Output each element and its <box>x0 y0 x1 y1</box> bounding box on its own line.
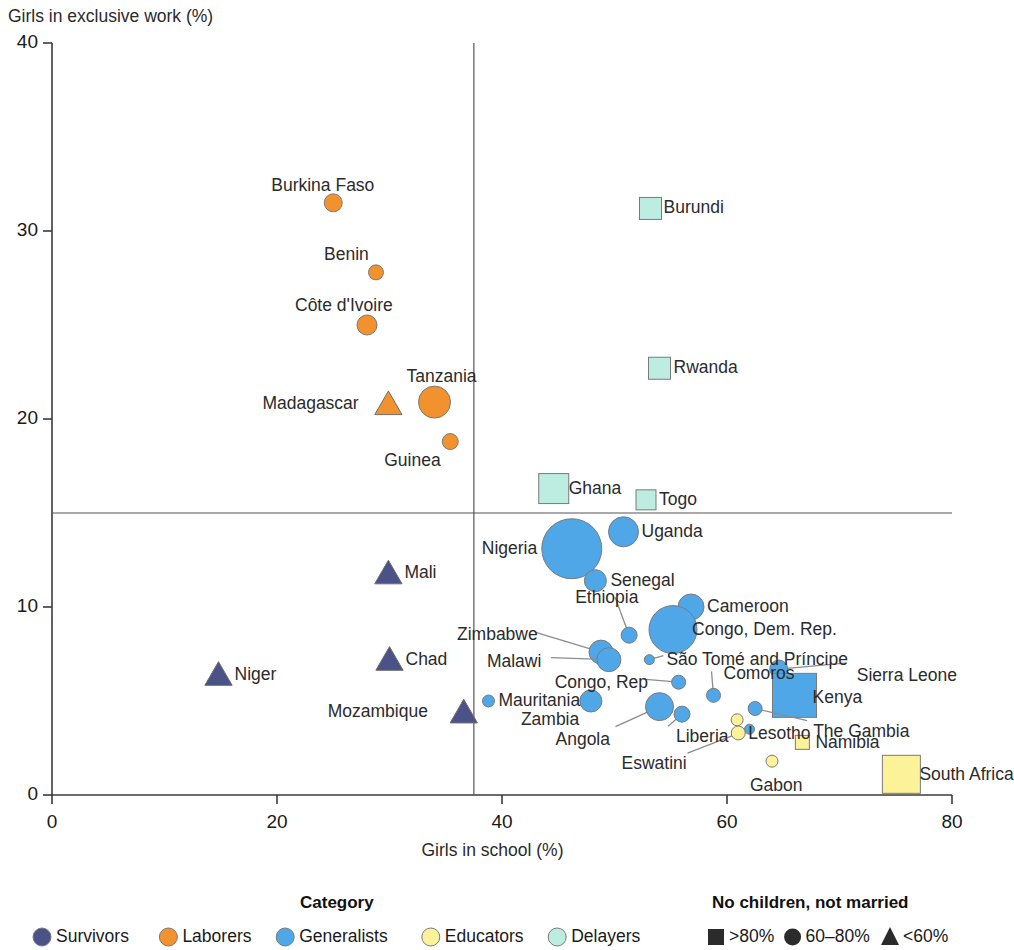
point-label: Eswatini <box>622 755 687 773</box>
data-point[interactable] <box>649 357 671 379</box>
data-point[interactable] <box>640 197 662 219</box>
marker-triangle <box>205 662 232 686</box>
point-label: Madagascar <box>262 395 358 413</box>
point-label: Angola <box>556 731 611 749</box>
marker-circle <box>731 726 745 740</box>
data-point[interactable] <box>419 386 451 418</box>
x-tick-label: 80 <box>934 811 970 833</box>
legend-label-delayers[interactable]: Delayers <box>571 926 640 947</box>
point-label: Zimbabwe <box>457 626 538 644</box>
marker-circle <box>609 517 639 547</box>
y-tick-label: 40 <box>17 31 38 53</box>
marker-circle <box>621 627 637 643</box>
point-label: Burkina Faso <box>271 177 374 195</box>
point-label: Tanzania <box>407 368 477 386</box>
point-label: Togo <box>659 491 697 509</box>
point-label: Mauritania <box>499 692 581 710</box>
point-label: Ethiopia <box>575 589 638 607</box>
legend-swatch-survivors[interactable] <box>33 928 51 946</box>
marker-square <box>539 474 569 504</box>
data-point[interactable] <box>539 474 569 504</box>
data-point[interactable] <box>882 755 920 793</box>
marker-circle <box>483 695 495 707</box>
marker-triangle <box>375 391 402 415</box>
point-label: Nigeria <box>482 540 537 558</box>
marker-circle <box>707 688 721 702</box>
marker-square <box>649 357 671 379</box>
y-tick-label: 20 <box>17 407 38 429</box>
y-tick-label: 30 <box>17 219 38 241</box>
point-label: Sierra Leone <box>857 667 957 685</box>
marker-circle <box>672 675 686 689</box>
legend-label-survivors[interactable]: Survivors <box>56 926 129 947</box>
point-label: South Africa <box>919 766 1013 784</box>
point-label: Malawi <box>487 653 541 671</box>
y-tick-label: 10 <box>17 595 38 617</box>
point-label: Mozambique <box>328 703 428 721</box>
marker-square <box>636 490 656 510</box>
data-point[interactable] <box>580 690 602 712</box>
legend-marriage-label-2[interactable]: <60% <box>903 926 948 947</box>
data-point[interactable] <box>375 391 402 415</box>
data-point[interactable] <box>616 693 674 727</box>
data-point[interactable] <box>766 755 778 767</box>
point-label: Burundi <box>664 199 724 217</box>
legend-marker-circle[interactable] <box>784 929 801 946</box>
data-point[interactable] <box>649 606 697 654</box>
legend-swatch-delayers[interactable] <box>548 928 566 946</box>
data-point[interactable] <box>324 194 342 212</box>
point-label: Uganda <box>642 523 703 541</box>
legend-marker-triangle[interactable] <box>881 927 899 945</box>
data-point[interactable] <box>731 726 745 740</box>
legend-swatch-laborers[interactable] <box>159 928 177 946</box>
point-label: Rwanda <box>674 359 738 377</box>
point-label: Guinea <box>384 452 440 470</box>
legend-marker-square[interactable] <box>708 929 724 945</box>
point-label: Côte d'Ivoire <box>295 297 393 315</box>
marker-circle <box>644 655 654 665</box>
data-point[interactable] <box>609 517 639 547</box>
data-point[interactable] <box>707 671 721 702</box>
data-point[interactable] <box>731 714 743 726</box>
x-tick-label: 40 <box>484 811 520 833</box>
data-point[interactable] <box>644 655 663 665</box>
point-label: Benin <box>324 246 369 264</box>
legend-marriage-label-0[interactable]: >80% <box>729 926 774 947</box>
marker-triangle <box>376 647 403 671</box>
marker-circle <box>674 706 690 722</box>
legend-label-educators[interactable]: Educators <box>445 926 524 947</box>
marker-circle <box>442 434 458 450</box>
marker-square <box>640 197 662 219</box>
data-point[interactable] <box>357 315 377 335</box>
x-tick-label: 60 <box>709 811 745 833</box>
legend-swatch-educators[interactable] <box>422 928 440 946</box>
marker-square <box>882 755 920 793</box>
point-label: Namibia <box>815 734 879 752</box>
data-point[interactable] <box>376 647 403 671</box>
point-label: Cameroon <box>707 598 789 616</box>
marker-circle <box>748 702 762 716</box>
data-point[interactable] <box>205 662 232 686</box>
legend-marriage-label-1[interactable]: 60–80% <box>806 926 870 947</box>
data-point[interactable] <box>636 490 656 510</box>
marker-circle <box>419 386 451 418</box>
x-tick-label: 20 <box>259 811 295 833</box>
marker-circle <box>731 714 743 726</box>
data-point[interactable] <box>375 560 402 584</box>
legend-category-title: Category <box>300 893 374 913</box>
marker-circle <box>357 315 377 335</box>
data-point[interactable] <box>551 648 621 672</box>
point-label: Niger <box>235 666 277 684</box>
data-point[interactable] <box>442 434 458 450</box>
legend-label-laborers[interactable]: Laborers <box>182 926 251 947</box>
y-tick-label: 0 <box>27 783 38 805</box>
marker-circle <box>324 194 342 212</box>
data-point[interactable] <box>369 265 384 280</box>
marker-circle <box>580 690 602 712</box>
legend-label-generalists[interactable]: Generalists <box>299 926 388 947</box>
data-point[interactable] <box>483 695 495 707</box>
legend-swatch-generalists[interactable] <box>276 928 294 946</box>
data-point[interactable] <box>643 675 686 689</box>
